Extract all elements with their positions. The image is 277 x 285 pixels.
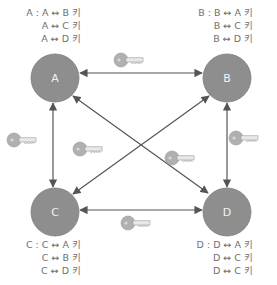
- key-list-item: C ↔ D 키: [26, 264, 81, 277]
- key-icon: [7, 133, 36, 147]
- edge-a-d: [73, 96, 208, 193]
- node-d: D: [203, 188, 251, 236]
- key-list-item: B ↔ C 키: [198, 19, 253, 32]
- key-list-item: B ↔ A 키: [214, 7, 253, 18]
- key-list-item: C ↔ A 키: [42, 239, 81, 250]
- key-list-item: D ↔ A 키: [213, 239, 253, 250]
- key-list-item: C ↔ B 키: [26, 251, 81, 264]
- key-list-b-prefix: B :: [198, 7, 211, 18]
- key-icon: [165, 151, 194, 165]
- key-icon: [114, 53, 143, 67]
- node-a: A: [31, 54, 79, 102]
- key-list-item: D ↔ C 키: [197, 264, 253, 277]
- key-list-a-prefix: A :: [26, 7, 39, 18]
- key-icon: [73, 142, 102, 156]
- key-icon: [229, 131, 258, 145]
- node-a-label: A: [51, 72, 59, 85]
- key-list-c: C : C ↔ A 키 C ↔ B 키 C ↔ D 키: [26, 238, 81, 277]
- key-list-c-prefix: C :: [26, 239, 39, 250]
- key-list-b: B : B ↔ A 키 B ↔ C 키 B ↔ D 키: [198, 6, 253, 45]
- key-icon: [121, 216, 150, 230]
- symmetric-key-diagram: A B C D A : A ↔ B 키 A ↔ C 키 A ↔ D 키 B : …: [0, 0, 277, 285]
- node-b: B: [203, 54, 251, 102]
- node-c-label: C: [51, 206, 59, 219]
- key-list-d: D : D ↔ A 키 D ↔ C 키 D ↔ C 키: [197, 238, 253, 277]
- key-list-d-prefix: D :: [197, 239, 211, 250]
- key-list-item: A ↔ D 키: [26, 32, 81, 45]
- node-b-label: B: [223, 72, 231, 85]
- node-d-label: D: [223, 206, 231, 219]
- key-list-item: B ↔ D 키: [198, 32, 253, 45]
- key-list-a: A : A ↔ B 키 A ↔ C 키 A ↔ D 키: [26, 6, 81, 45]
- key-list-item: A ↔ B 키: [42, 7, 81, 18]
- edges: [53, 73, 227, 210]
- key-list-item: D ↔ C 키: [197, 251, 253, 264]
- key-list-item: A ↔ C 키: [26, 19, 81, 32]
- node-c: C: [31, 188, 79, 236]
